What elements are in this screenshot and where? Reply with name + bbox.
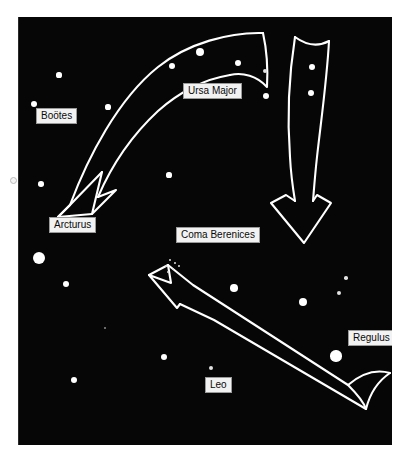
star-leo-regulus <box>330 350 341 361</box>
cluster-dot-5 <box>167 271 169 273</box>
page-margin-artifact <box>10 177 17 184</box>
star-center-field <box>166 172 171 177</box>
star-leo-beam-1 <box>230 284 238 292</box>
label-leo: Leo <box>205 377 232 393</box>
star-chart-figure: Boötes Ursa Major Arcturus Coma Berenice… <box>0 0 412 471</box>
label-coma-berenices: Coma Berenices <box>176 227 260 243</box>
right-vertical-arrow <box>271 37 331 243</box>
label-regulus: Regulus <box>348 330 392 346</box>
label-ursa-major: Ursa Major <box>183 83 242 99</box>
star-left-lower <box>63 281 69 287</box>
star-right-mid-1 <box>344 276 348 280</box>
cluster-dot-1 <box>174 262 176 264</box>
cluster-dot-4 <box>178 265 180 267</box>
star-bootes-left <box>31 101 37 107</box>
star-bootes-right <box>105 104 110 109</box>
label-arcturus: Arcturus <box>49 217 96 233</box>
star-bootes-upper <box>56 72 61 77</box>
star-left-mid <box>38 181 44 187</box>
cluster-dot-2 <box>165 265 167 267</box>
sky-plate: Boötes Ursa Major Arcturus Coma Berenice… <box>18 17 392 445</box>
label-bootes: Boötes <box>36 108 77 124</box>
star-between-2 <box>263 93 269 99</box>
